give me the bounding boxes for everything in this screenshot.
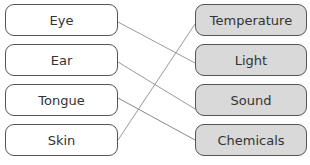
left-item-tongue[interactable]: Tongue bbox=[5, 84, 118, 116]
right-item-label: Chemicals bbox=[217, 133, 284, 148]
right-item-label: Sound bbox=[231, 93, 272, 108]
line-tongue-chemicals bbox=[118, 98, 195, 140]
right-item-temperature[interactable]: Temperature bbox=[195, 4, 307, 36]
left-item-ear[interactable]: Ear bbox=[5, 44, 118, 76]
left-item-skin[interactable]: Skin bbox=[5, 124, 118, 156]
line-skin-temperature bbox=[118, 24, 195, 140]
left-item-label: Tongue bbox=[38, 93, 84, 108]
left-item-eye[interactable]: Eye bbox=[5, 4, 118, 36]
right-item-label: Temperature bbox=[210, 13, 292, 28]
line-eye-light bbox=[118, 22, 195, 63]
right-item-chemicals[interactable]: Chemicals bbox=[195, 124, 307, 156]
left-item-label: Eye bbox=[50, 13, 74, 28]
right-item-light[interactable]: Light bbox=[195, 44, 307, 76]
left-item-label: Ear bbox=[51, 53, 73, 68]
right-item-sound[interactable]: Sound bbox=[195, 84, 307, 116]
right-item-label: Light bbox=[235, 53, 267, 68]
left-item-label: Skin bbox=[48, 133, 76, 148]
